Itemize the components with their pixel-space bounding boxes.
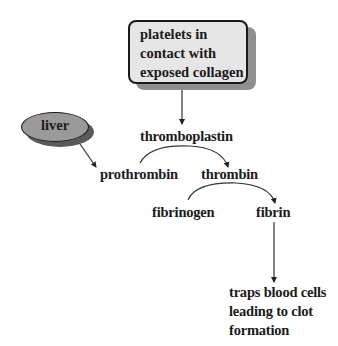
curved-arrow-fibrinogen-to-fibrin [188,183,275,203]
liver-label: liver [22,117,88,134]
arrow-liver-to-prothrombin [80,144,96,167]
curved-arrow-prothrombin-to-thrombin [140,146,228,167]
fibrinogen-label: fibrinogen [152,203,214,222]
platelets-label: platelets in contact with exposed collag… [140,25,244,82]
liver-ellipse: liver [21,112,89,142]
thrombin-label: thrombin [201,165,258,184]
outcome-line-2: leading to clot [229,302,326,321]
platelets-line-1: platelets in [140,25,244,44]
outcome-label: traps blood cells leading to clot format… [229,283,326,340]
platelets-box: platelets in contact with exposed collag… [128,20,248,84]
outcome-line-1: traps blood cells [229,283,326,302]
outcome-line-3: formation [229,321,326,340]
fibrin-label: fibrin [256,203,290,222]
platelets-line-3: exposed collagen [140,63,244,82]
thromboplastin-label: thromboplastin [140,127,233,146]
prothrombin-label: prothrombin [100,165,178,184]
platelets-line-2: contact with [140,44,244,63]
